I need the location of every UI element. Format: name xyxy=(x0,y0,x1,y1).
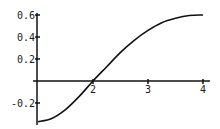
x-tick-label: 3 xyxy=(145,84,151,95)
y-tick-group: 0.60.40.2-0.2 xyxy=(11,10,40,109)
line-chart: 0.60.40.2-0.2 234 xyxy=(0,0,220,129)
data-curve xyxy=(38,15,203,122)
y-tick-label: 0.6 xyxy=(17,10,35,21)
y-tick-label: 0.2 xyxy=(17,54,35,65)
x-tick-label: 4 xyxy=(200,84,206,95)
x-tick-label: 2 xyxy=(90,84,96,95)
y-tick-label: 0.4 xyxy=(17,32,35,43)
y-tick-label: -0.2 xyxy=(11,98,35,109)
